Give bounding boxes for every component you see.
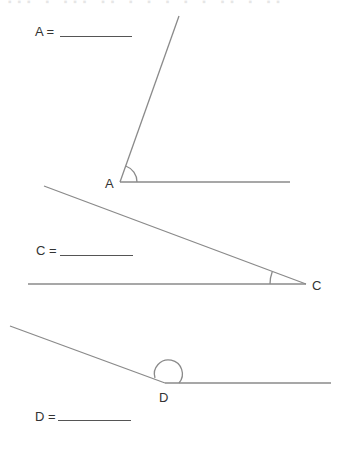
vertex-label-d: D xyxy=(159,391,168,404)
angle-d-arm-slanted xyxy=(10,326,165,383)
answer-label-a: A = xyxy=(35,25,54,38)
vertex-label-c: C xyxy=(312,279,321,292)
angle-d-figure xyxy=(10,326,331,383)
answer-label-c: C = xyxy=(36,244,57,257)
answer-field-d[interactable] xyxy=(58,420,131,421)
angle-d-arc xyxy=(154,360,182,383)
angle-c-arc xyxy=(270,271,272,284)
answer-label-d: D = xyxy=(35,410,56,423)
vertex-label-a: A xyxy=(105,177,114,190)
angle-drawings xyxy=(0,0,341,455)
angle-a-figure xyxy=(120,16,290,182)
angle-c-figure xyxy=(28,186,306,284)
angle-c-arm-slanted xyxy=(44,186,306,284)
angle-a-arc xyxy=(126,166,137,182)
worksheet: ▪▪▪ ▪ ▪▪▪ ▪▪ ▪ ▪ ▪ ▪ ▪ ▪▪ ▪ ▪▪ A = A C =… xyxy=(0,0,341,455)
angle-a-arm-upper xyxy=(120,16,179,182)
answer-field-c[interactable] xyxy=(60,255,133,256)
answer-field-a[interactable] xyxy=(60,36,132,37)
